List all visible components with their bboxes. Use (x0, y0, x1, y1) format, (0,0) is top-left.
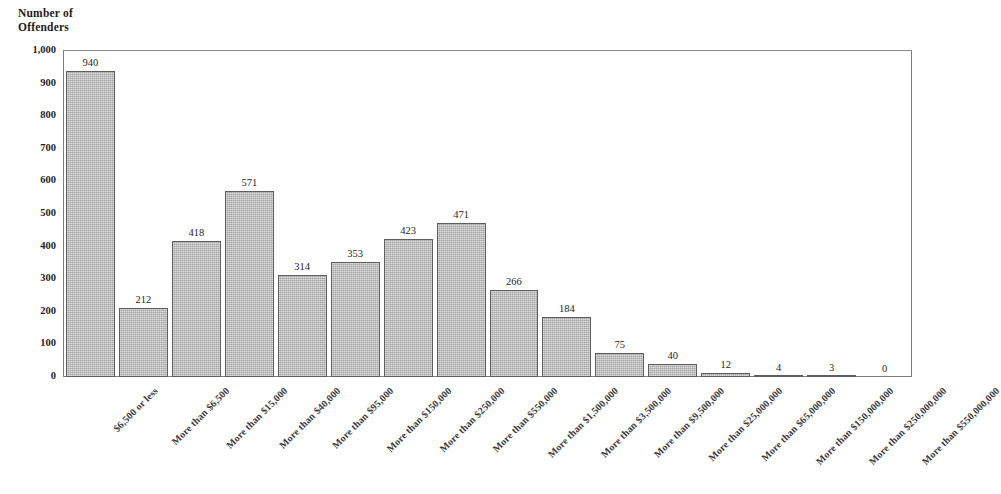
bar[interactable] (490, 290, 539, 377)
bar-slot: 571 (223, 51, 276, 377)
bar-value-label: 212 (117, 294, 170, 305)
bar-value-label: 418 (170, 227, 223, 238)
bar[interactable] (119, 308, 168, 377)
bar-value-label: 12 (699, 359, 752, 370)
bar-value-label: 40 (646, 350, 699, 361)
y-axis-tick-700: 700 (0, 142, 56, 153)
bar-value-label: 314 (276, 261, 329, 272)
bar-slot: 12 (699, 51, 752, 377)
bar[interactable] (331, 262, 380, 377)
bar-value-label: 571 (223, 177, 276, 188)
y-axis-tick-1000: 1,000 (0, 44, 56, 55)
bars-container: 940212418571314353423471266184754012430 (64, 51, 911, 377)
bar-slot: 184 (540, 51, 593, 377)
bar-slot: 4 (752, 51, 805, 377)
bar-value-label: 4 (752, 362, 805, 373)
bar[interactable] (595, 353, 644, 377)
bar-slot: 353 (329, 51, 382, 377)
y-axis-tick-0: 0 (0, 370, 56, 381)
bar-value-label: 423 (382, 225, 435, 236)
y-axis-tick-600: 600 (0, 174, 56, 185)
y-axis-tick-500: 500 (0, 207, 56, 218)
bar-slot: 940 (64, 51, 117, 377)
bar-slot: 212 (117, 51, 170, 377)
bar-slot: 423 (382, 51, 435, 377)
bar[interactable] (225, 191, 274, 377)
x-axis-tick-labels: $6,500 or lessMore than $6,500More than … (64, 377, 911, 494)
bar[interactable] (384, 239, 433, 377)
x-axis-tick-label: More than $6,500 (170, 385, 232, 447)
bar-slot: 75 (593, 51, 646, 377)
y-axis-tick-800: 800 (0, 109, 56, 120)
bar-value-label: 0 (858, 363, 911, 374)
y-axis-tick-400: 400 (0, 240, 56, 251)
y-axis-tick-200: 200 (0, 305, 56, 316)
bar-value-label: 266 (488, 276, 541, 287)
y-axis-tick-900: 900 (0, 77, 56, 88)
bar[interactable] (437, 223, 486, 377)
bar-slot: 266 (488, 51, 541, 377)
bar[interactable] (542, 317, 591, 377)
bar-slot: 418 (170, 51, 223, 377)
bar-slot: 40 (646, 51, 699, 377)
bar[interactable] (172, 241, 221, 377)
bar-slot: 314 (276, 51, 329, 377)
bar[interactable] (66, 71, 115, 377)
y-axis-tick-labels: 01002003004005006007008009001,000 (0, 0, 58, 494)
bar-value-label: 471 (435, 209, 488, 220)
x-axis-tick-label: $6,500 or less (112, 385, 161, 434)
bar-slot: 471 (435, 51, 488, 377)
bar-value-label: 940 (64, 57, 117, 68)
bar-value-label: 75 (593, 339, 646, 350)
bar-value-label: 3 (805, 362, 858, 373)
bar-value-label: 353 (329, 248, 382, 259)
bar[interactable] (278, 275, 327, 377)
bar[interactable] (648, 364, 697, 377)
bar-slot: 0 (858, 51, 911, 377)
bar-value-label: 184 (540, 303, 593, 314)
y-axis-tick-300: 300 (0, 272, 56, 283)
y-axis-tick-100: 100 (0, 337, 56, 348)
bar-slot: 3 (805, 51, 858, 377)
